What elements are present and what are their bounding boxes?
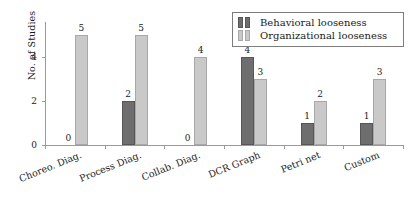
bar-value-label: 3: [377, 68, 383, 77]
x-tick-mark: [224, 145, 225, 149]
bar-value-label: 5: [78, 24, 84, 33]
legend-swatch-organizational-icon: [238, 30, 260, 41]
x-tick-label: Custom: [316, 150, 381, 184]
bar-value-label: 0: [185, 134, 191, 143]
bar-wrapper: 2: [122, 22, 135, 145]
x-tick-mark: [45, 145, 46, 149]
bar-value-label: 2: [317, 90, 323, 99]
bar-value-label: 1: [364, 112, 370, 121]
bar: [301, 123, 314, 145]
bar-wrapper: 4: [194, 22, 207, 145]
legend-label-behavioral: Behavioral looseness: [260, 18, 367, 28]
legend-item-organizational: Organizational looseness: [238, 29, 398, 42]
bar-chart: No. of Studies 024 052504431213 Choreo. …: [0, 0, 412, 199]
bar: [122, 101, 135, 145]
x-tick-mark: [343, 145, 344, 149]
bar-value-label: 3: [257, 68, 263, 77]
bar-wrapper: 5: [75, 22, 88, 145]
y-tick-label: 4: [0, 53, 37, 62]
bar-value-label: 1: [304, 112, 310, 121]
x-tick-label: Petri net: [256, 150, 321, 184]
bar-wrapper: 5: [135, 22, 148, 145]
bar: [75, 35, 88, 145]
x-tick-mark: [105, 145, 106, 149]
bar-group: 25: [105, 22, 165, 145]
x-tick-label: Choreo. Diag.: [18, 150, 83, 184]
legend-label-organizational: Organizational looseness: [260, 31, 387, 41]
x-tick-mark: [164, 145, 165, 149]
legend-swatch-behavioral-icon: [238, 17, 260, 28]
bar-value-label: 0: [65, 134, 71, 143]
y-tick-label: 2: [0, 97, 37, 106]
legend-item-behavioral: Behavioral looseness: [238, 16, 398, 29]
x-tick-label: DCR Graph: [197, 150, 262, 184]
bar-wrapper: 0: [62, 22, 75, 145]
bar-group: 04: [164, 22, 224, 145]
bar-value-label: 4: [198, 46, 204, 55]
bar: [314, 101, 327, 145]
y-tick-label: 0: [0, 141, 37, 150]
chart-legend: Behavioral looseness Organizational loos…: [232, 12, 404, 47]
x-tick-label: Process Diag.: [77, 150, 142, 184]
bar: [194, 57, 207, 145]
bar-value-label: 4: [244, 46, 250, 55]
bar: [360, 123, 373, 145]
bar-value-label: 5: [138, 24, 144, 33]
bar: [135, 35, 148, 145]
bar: [254, 79, 267, 145]
bar-group: 05: [45, 22, 105, 145]
bar-value-label: 2: [125, 90, 131, 99]
y-axis-label: No. of Studies: [26, 0, 37, 101]
x-tick-mark: [403, 145, 404, 149]
bar: [373, 79, 386, 145]
bar: [241, 57, 254, 145]
x-tick-label: Collab. Diag.: [137, 150, 202, 184]
x-tick-mark: [284, 145, 285, 149]
bar-wrapper: 0: [181, 22, 194, 145]
